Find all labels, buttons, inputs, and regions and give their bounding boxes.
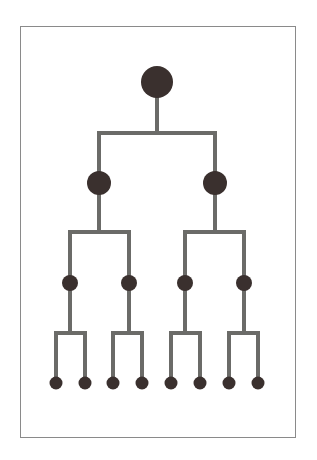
- leaf-node: [223, 377, 236, 390]
- leaf-node: [79, 377, 92, 390]
- tree-node: [121, 275, 137, 291]
- tree-node: [62, 275, 78, 291]
- tree-node: [177, 275, 193, 291]
- tree-node: [87, 171, 111, 195]
- tree-node: [203, 171, 227, 195]
- tree-diagram: [0, 0, 317, 460]
- leaf-node: [50, 377, 63, 390]
- tree-node: [236, 275, 252, 291]
- leaf-node: [136, 377, 149, 390]
- leaf-node: [194, 377, 207, 390]
- leaf-node: [252, 377, 265, 390]
- root-node: [141, 66, 173, 98]
- tree-edges: [56, 82, 258, 383]
- leaf-node: [165, 377, 178, 390]
- leaf-node: [107, 377, 120, 390]
